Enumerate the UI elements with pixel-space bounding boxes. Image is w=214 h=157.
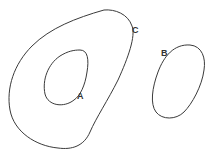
label-a: A bbox=[77, 91, 84, 101]
label-b: B bbox=[161, 48, 168, 58]
label-c: C bbox=[132, 25, 139, 35]
diagram-canvas: C A B bbox=[0, 0, 214, 157]
curve-c bbox=[9, 10, 133, 149]
